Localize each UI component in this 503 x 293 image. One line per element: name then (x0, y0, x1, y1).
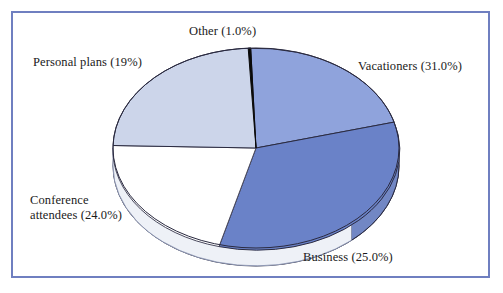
pie-label-conference-line2: attendees (24.0%) (30, 208, 122, 222)
pie-label-personal-plans: Personal plans (19%) (33, 55, 142, 70)
pie-label-business: Business (25.0%) (303, 250, 393, 265)
pie-label-conference-line1: Conference (30, 193, 89, 207)
pie-label-other: Other (1.0%) (189, 24, 256, 39)
pie-chart-figure: Other (1.0%) Vacationers (31.0%) Persona… (0, 0, 503, 293)
pie-label-conference-attendees: Conferenceattendees (24.0%) (30, 193, 122, 222)
pie-label-vacationers: Vacationers (31.0%) (358, 59, 462, 74)
pie-chart-canvas (0, 0, 503, 293)
